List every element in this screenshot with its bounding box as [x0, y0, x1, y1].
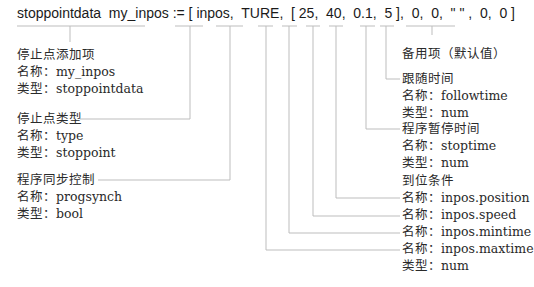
annotation-type: 类型：bool [17, 205, 122, 222]
annotation-title: 程序暂停时间 [402, 120, 496, 137]
annotation-title: 备用项（默认值） [402, 45, 506, 62]
annotation-type: 类型：num [402, 154, 496, 171]
annotation-spare: 备用项（默认值） [402, 45, 506, 62]
annotation-name: 名称：progsynch [17, 188, 122, 205]
annotation-name: 名称：type [17, 127, 116, 144]
annotation-followtime: 跟随时间 名称：followtime 类型：num [402, 70, 508, 121]
annotation-stoptime: 程序暂停时间 名称：stoptime 类型：num [402, 120, 496, 171]
annotation-title: 停止点类型 [17, 110, 116, 127]
annotation-name-maxtime: 名称：inpos.maxtime [402, 240, 534, 257]
annotation-name: 名称：stoptime [402, 137, 496, 154]
annotation-title: 程序同步控制 [17, 171, 122, 188]
annotation-inpos: 到位条件 名称：inpos.position 名称：inpos.speed 名称… [402, 172, 534, 274]
annotation-stoppoint-type: 停止点类型 名称：type 类型：stoppoint [17, 110, 116, 161]
annotation-progsynch: 程序同步控制 名称：progsynch 类型：bool [17, 171, 122, 222]
annotation-stoppoint-item: 停止点添加项 名称：my_inpos 类型：stoppointdata [17, 46, 144, 97]
annotation-title: 跟随时间 [402, 70, 508, 87]
annotation-name-position: 名称：inpos.position [402, 189, 534, 206]
annotation-title: 停止点添加项 [17, 46, 144, 63]
annotation-title: 到位条件 [402, 172, 534, 189]
annotation-name-mintime: 名称：inpos.mintime [402, 223, 534, 240]
annotation-name: 名称：followtime [402, 87, 508, 104]
annotation-type: 类型：stoppointdata [17, 80, 144, 97]
annotation-type: 类型：num [402, 104, 508, 121]
annotation-name-speed: 名称：inpos.speed [402, 206, 534, 223]
annotation-type: 类型：num [402, 257, 534, 274]
annotation-type: 类型：stoppoint [17, 144, 116, 161]
annotation-name: 名称：my_inpos [17, 63, 144, 80]
